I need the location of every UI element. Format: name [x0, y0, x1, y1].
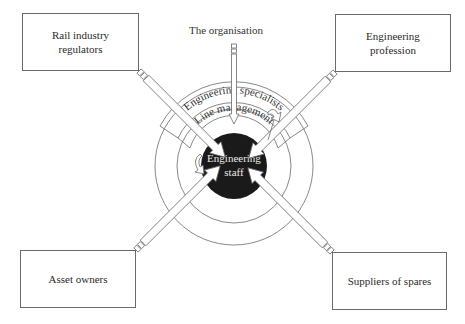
- box-label-line2: regulators: [52, 42, 109, 56]
- box-engineering-profession: Engineering profession: [335, 14, 451, 72]
- box-label-line1: Rail industry: [52, 28, 109, 42]
- box-label-line1: Asset owners: [49, 272, 108, 286]
- core-label-line2: staff: [224, 166, 244, 178]
- box-label-line2: profession: [366, 43, 420, 57]
- box-label-line1: Suppliers of spares: [348, 274, 432, 288]
- box-rail-industry-regulators: Rail industry regulators: [22, 13, 139, 71]
- organisation-label: The organisation: [189, 24, 263, 36]
- box-suppliers-of-spares: Suppliers of spares: [332, 252, 447, 310]
- box-label-line1: Engineering: [366, 29, 420, 43]
- box-asset-owners: Asset owners: [20, 250, 136, 308]
